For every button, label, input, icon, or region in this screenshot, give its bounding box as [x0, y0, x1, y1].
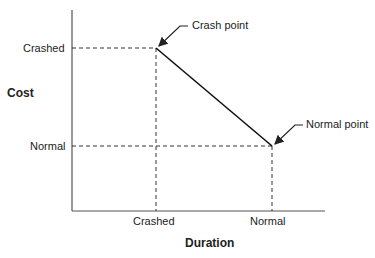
- y-tick-normal: Normal: [30, 140, 65, 152]
- crash-point-arrow: [159, 26, 188, 46]
- x-axis-title: Duration: [185, 236, 234, 250]
- crash-point-label: Crash point: [192, 19, 248, 31]
- cost-slope-line: [156, 48, 272, 146]
- x-tick-crashed: Crashed: [133, 215, 175, 227]
- normal-point-label: Normal point: [306, 118, 368, 130]
- x-tick-normal: Normal: [250, 215, 285, 227]
- y-tick-crashed: Crashed: [23, 42, 65, 54]
- normal-point-arrow: [275, 125, 303, 144]
- y-axis-title: Cost: [7, 86, 34, 100]
